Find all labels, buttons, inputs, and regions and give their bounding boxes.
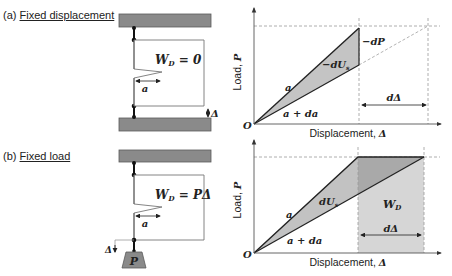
chart-b: Load, P Displacement, Δ O a a + da dUs W… — [231, 140, 441, 268]
weight-label: P — [129, 255, 139, 268]
displacement-symbol-b: Δ — [104, 245, 112, 255]
specimen-a: a WD = 0 Δ — [119, 14, 219, 131]
displacement-symbol-a: Δ — [210, 108, 219, 119]
bottom-plate-a — [119, 118, 211, 131]
increment-label-b: dΔ — [384, 223, 399, 234]
cracked-specimen-a — [134, 40, 204, 106]
y-axis-label-a: Load, P — [231, 53, 243, 90]
figure-canvas: a WD = 0 Δ a WD = PΔ P Δ — [0, 0, 452, 276]
work-label-a: WD = 0 — [155, 53, 202, 68]
line-b-a-label: a — [286, 209, 292, 220]
origin-a: O — [243, 120, 252, 131]
increment-label-a: dΔ — [387, 92, 402, 103]
x-axis-label-a: Displacement, Δ — [309, 127, 386, 139]
line-b-a-da-label: a + da — [287, 235, 322, 246]
strain-energy-label-a: −dUs — [322, 59, 350, 71]
line-a-da-label: a + da — [283, 108, 318, 119]
crack-length-a: a — [142, 83, 148, 94]
top-plate-b — [119, 150, 211, 162]
top-plate-a — [119, 14, 211, 27]
x-axis-label-b: Displacement, Δ — [309, 256, 386, 268]
specimen-b: a WD = PΔ P Δ — [104, 150, 211, 268]
work-label-b: WD = PΔ — [155, 188, 211, 203]
y-axis-label-b: Load, P — [231, 181, 243, 218]
line-a-label: a — [285, 82, 291, 93]
crack-length-b: a — [142, 218, 148, 229]
cracked-specimen-b — [134, 175, 204, 240]
origin-b: O — [243, 249, 252, 260]
load-drop-label: −dP — [362, 36, 385, 47]
chart-a: Load, P Displacement, Δ O a a + da −dUs … — [231, 8, 441, 139]
